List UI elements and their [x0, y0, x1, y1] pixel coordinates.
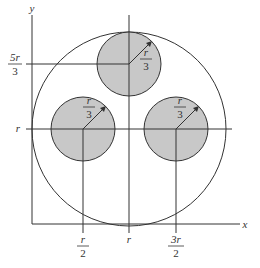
x-tick-3r2: 3r 2: [168, 233, 184, 259]
x-axis-label: x: [242, 218, 248, 230]
x-tick-r2: r 2: [77, 233, 89, 259]
svg-text:3: 3: [177, 108, 183, 120]
y-axis-label: y: [29, 2, 35, 14]
svg-text:r: r: [81, 233, 86, 245]
svg-text:2: 2: [80, 247, 86, 259]
diagram-canvas: r 3 r 3 r 3 y x 5r 3 r r 2 r 3r 2: [0, 0, 260, 268]
svg-text:3: 3: [86, 108, 92, 120]
y-tick-r: r: [16, 122, 21, 134]
svg-text:r: r: [144, 46, 149, 58]
x-tick-r: r: [127, 233, 132, 245]
svg-text:3: 3: [143, 60, 149, 72]
svg-text:3r: 3r: [170, 233, 182, 245]
svg-text:r: r: [178, 94, 183, 106]
svg-text:2: 2: [173, 247, 179, 259]
y-tick-5r3: 5r 3: [8, 51, 22, 77]
svg-text:3: 3: [12, 65, 18, 77]
svg-text:r: r: [87, 94, 92, 106]
svg-text:5r: 5r: [10, 51, 21, 63]
